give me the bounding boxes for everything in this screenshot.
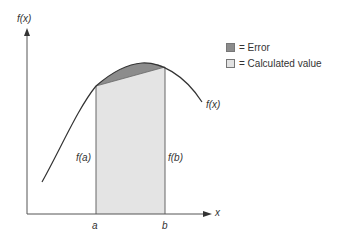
fa-label: f(a) — [76, 152, 91, 163]
error-swatch-icon — [226, 43, 235, 52]
legend-item-calculated: = Calculated value — [226, 55, 322, 71]
legend-label-error: = Error — [239, 42, 270, 53]
curve-label: f(x) — [206, 99, 220, 110]
legend-item-error: = Error — [226, 39, 322, 55]
legend: = Error = Calculated value — [226, 39, 322, 71]
calculated-swatch-icon — [226, 59, 235, 68]
y-axis-label: f(x) — [17, 13, 31, 24]
y-axis-arrow-icon — [24, 28, 30, 36]
point-b-label: b — [162, 220, 168, 231]
legend-label-calculated: = Calculated value — [239, 58, 322, 69]
trapezoid-diagram — [0, 0, 339, 240]
fb-label: f(b) — [168, 152, 183, 163]
point-a-label: a — [92, 220, 98, 231]
x-axis-label: x — [215, 207, 220, 218]
x-axis-arrow-icon — [203, 211, 212, 217]
calculated-value-region — [96, 67, 165, 214]
